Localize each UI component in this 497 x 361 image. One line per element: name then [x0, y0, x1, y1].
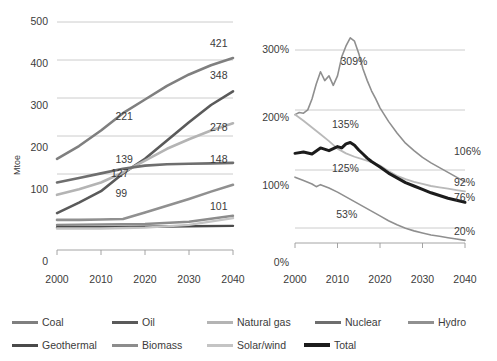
x-tick-right-2000: 2000	[271, 273, 319, 285]
legend-label: Biomass	[142, 339, 182, 351]
legend-swatch-hydro-icon	[408, 321, 434, 324]
series-line-hydro	[57, 185, 233, 220]
end-label-right-20pct: 20%	[454, 225, 475, 237]
end-label-right-76pct: 76%	[454, 191, 475, 203]
legend-swatch-total-icon	[304, 343, 330, 347]
x-tick-left-2010: 2010	[77, 273, 125, 285]
legend-label: Total	[334, 339, 356, 351]
chart-panel-left: Mtoe 5004003002001000 200020102020203020…	[0, 0, 249, 295]
y-tick-left-100: 100	[6, 183, 48, 195]
legend-item-oil[interactable]: Oil	[112, 316, 155, 328]
legend-item-total[interactable]: Total	[304, 339, 356, 351]
series-line-nuclear	[57, 163, 233, 183]
x-tick-right-2040: 2040	[441, 273, 489, 285]
legend-label: Natural gas	[237, 316, 291, 328]
legend-swatch-coal-icon	[12, 321, 38, 324]
y-tick-left-0: 0	[6, 255, 48, 267]
y-tick-left-400: 400	[6, 57, 48, 69]
y-tick-left-300: 300	[6, 99, 48, 111]
x-tick-right-2020: 2020	[356, 273, 404, 285]
y-tick-right-0pct: 0%	[249, 256, 289, 268]
legend-label: Oil	[142, 316, 155, 328]
x-tick-left-2000: 2000	[33, 273, 81, 285]
x-tick-right-2030: 2030	[399, 273, 447, 285]
legend-swatch-biomass-icon	[112, 344, 138, 347]
y-tick-right-300pct: 300%	[249, 43, 289, 55]
series-line-oil	[57, 91, 233, 213]
y-tick-right-100pct: 100%	[249, 179, 289, 191]
legend-swatch-natural-gas-icon	[207, 321, 233, 324]
legend-label: Hydro	[438, 316, 466, 328]
y-tick-right-200pct: 200%	[249, 111, 289, 123]
chart-legend: CoalOilNatural gasNuclearHydroGeothermal…	[0, 296, 497, 361]
inner-label-left-127: 127	[111, 167, 129, 179]
end-label-left-148: 148	[210, 153, 228, 165]
legend-item-geothermal[interactable]: Geothermal	[12, 339, 97, 351]
inner-label-right-125pct: 125%	[332, 162, 359, 174]
legend-swatch-oil-icon	[112, 321, 138, 324]
inner-label-right-53pct: 53%	[336, 208, 357, 220]
end-label-left-348: 348	[210, 69, 228, 81]
series-line-nuclear-index	[295, 115, 465, 192]
legend-swatch-nuclear-icon	[315, 321, 341, 324]
legend-label: Solar/wind	[237, 339, 286, 351]
end-label-right-92pct: 92%	[454, 176, 475, 188]
legend-label: Geothermal	[42, 339, 97, 351]
x-tick-left-2030: 2030	[165, 273, 213, 285]
y-tick-left-500: 500	[6, 15, 48, 27]
series-line-total	[295, 142, 465, 202]
legend-label: Nuclear	[345, 316, 381, 328]
end-label-left-421: 421	[210, 37, 228, 49]
inner-label-left-99: 99	[115, 187, 127, 199]
inner-label-left-139: 139	[115, 153, 133, 165]
legend-item-biomass[interactable]: Biomass	[112, 339, 182, 351]
inner-label-right-135pct: 135%	[332, 118, 359, 130]
x-tick-left-2020: 2020	[121, 273, 169, 285]
legend-swatch-solar-wind-icon	[207, 344, 233, 347]
x-tick-right-2010: 2010	[314, 273, 362, 285]
legend-item-solar-wind[interactable]: Solar/wind	[207, 339, 286, 351]
y-tick-left-200: 200	[6, 141, 48, 153]
legend-item-natural-gas[interactable]: Natural gas	[207, 316, 291, 328]
legend-swatch-geothermal-icon	[12, 344, 38, 347]
chart-panel-right: 0%100%200%300% 20002010202020302040 106%…	[249, 0, 497, 295]
legend-item-nuclear[interactable]: Nuclear	[315, 316, 381, 328]
chart-figure: Mtoe 5004003002001000 200020102020203020…	[0, 0, 497, 361]
end-label-left-278: 278	[210, 121, 228, 133]
legend-item-coal[interactable]: Coal	[12, 316, 64, 328]
inner-label-left-221: 221	[115, 110, 133, 122]
legend-label: Coal	[42, 316, 64, 328]
end-label-right-106pct: 106%	[454, 145, 481, 157]
end-label-left-101: 101	[210, 200, 228, 212]
legend-item-hydro[interactable]: Hydro	[408, 316, 466, 328]
inner-label-right-309pct: 309%	[341, 55, 368, 67]
